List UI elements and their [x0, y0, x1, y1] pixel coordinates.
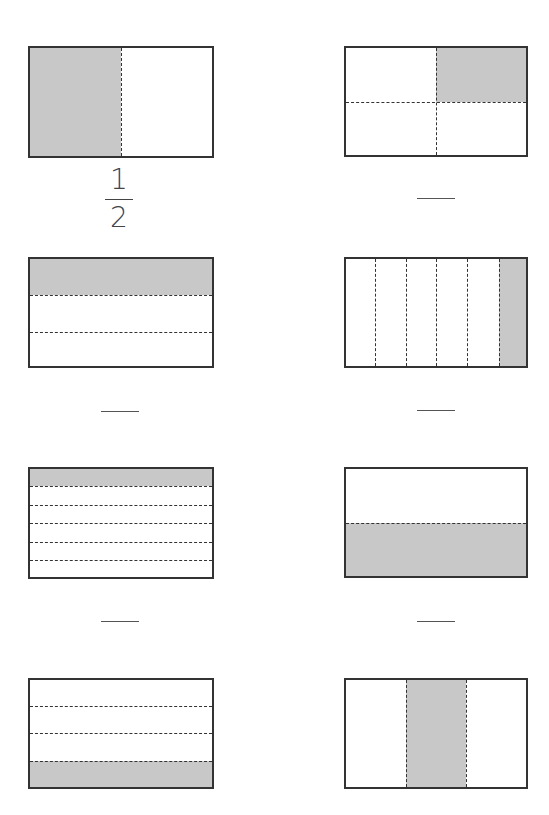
divider-line	[30, 761, 212, 762]
divider-line	[406, 680, 407, 787]
divider-line	[30, 542, 212, 543]
divider-line	[30, 706, 212, 707]
divider-line	[30, 332, 212, 333]
answer-blank-3[interactable]	[101, 411, 139, 412]
numerator: 1	[99, 165, 139, 195]
divider-line	[30, 486, 212, 487]
divider-line	[30, 523, 212, 524]
answer-fraction-1: 1 2	[99, 165, 139, 233]
divider-line	[375, 259, 376, 366]
shaded-part	[406, 680, 466, 787]
shaded-part	[30, 469, 212, 486]
fraction-box-1	[28, 46, 214, 158]
divider-line	[467, 259, 468, 366]
fraction-bar	[105, 199, 133, 200]
divider-line	[30, 560, 212, 561]
fraction-box-3	[28, 257, 214, 368]
divider-line	[30, 733, 212, 734]
shaded-part	[436, 48, 526, 102]
divider-line	[346, 102, 526, 103]
fraction-box-6	[344, 467, 528, 578]
fraction-box-4	[344, 257, 528, 368]
denominator: 2	[99, 203, 139, 233]
answer-blank-6[interactable]	[417, 621, 455, 622]
shaded-part	[30, 259, 212, 295]
fraction-box-5	[28, 467, 214, 579]
answer-blank-2[interactable]	[417, 198, 455, 199]
divider-line	[466, 680, 467, 787]
fraction-box-2	[344, 46, 528, 157]
answer-blank-5[interactable]	[101, 621, 139, 622]
answer-blank-4[interactable]	[417, 410, 455, 411]
divider-line	[346, 523, 526, 524]
divider-line	[30, 505, 212, 506]
shaded-part	[346, 523, 526, 576]
divider-line	[121, 48, 122, 156]
divider-line	[499, 259, 500, 366]
shaded-part	[30, 761, 212, 787]
divider-line	[30, 295, 212, 296]
shaded-part	[499, 259, 526, 366]
shaded-part	[30, 48, 121, 156]
fraction-box-8	[344, 678, 528, 789]
divider-line	[436, 259, 437, 366]
divider-line	[406, 259, 407, 366]
fraction-box-7	[28, 678, 214, 789]
